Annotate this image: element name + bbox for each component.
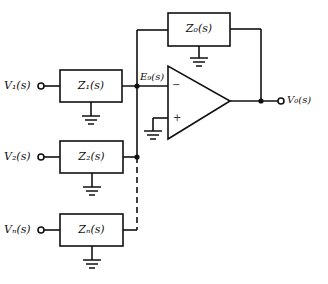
- inverting-sign: −: [172, 80, 180, 90]
- summing-junction-dot: [134, 83, 139, 88]
- circuit-wires: [0, 0, 328, 284]
- eg-label: E₉(s): [140, 72, 164, 82]
- vn-label: Vₙ(s): [4, 224, 31, 235]
- v0-terminal: [278, 98, 284, 104]
- zn-label: Zₙ(s): [60, 224, 123, 235]
- z0-label: Z₀(s): [168, 23, 230, 34]
- junction-dot: [134, 154, 139, 159]
- v2-label: V₂(s): [4, 151, 31, 162]
- noninverting-sign: +: [173, 113, 181, 123]
- vn-terminal: [38, 227, 44, 233]
- v2-terminal: [38, 154, 44, 160]
- v1-label: V₁(s): [4, 80, 31, 91]
- z2-label: Z₂(s): [60, 151, 123, 162]
- v0-label: V₀(s): [287, 95, 311, 105]
- z1-label: Z₁(s): [60, 80, 122, 91]
- output-junction-dot: [258, 98, 263, 103]
- v1-terminal: [38, 83, 44, 89]
- summing-amplifier-diagram: V₁(s) V₂(s) Vₙ(s) Z₁(s) Z₂(s) Zₙ(s) Z₀(s…: [0, 0, 328, 284]
